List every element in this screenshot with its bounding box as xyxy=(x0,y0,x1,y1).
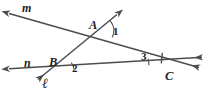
geometry-canvas xyxy=(0,0,214,92)
angle-label-3: 3 xyxy=(141,51,147,62)
angle-label-1: 1 xyxy=(113,26,119,37)
angle-label-2: 2 xyxy=(72,63,78,74)
angle-3-arc xyxy=(148,59,149,66)
congruence-tick-icon xyxy=(161,53,162,64)
point-label-b: B xyxy=(49,56,57,69)
line-n-segment xyxy=(9,57,202,69)
point-label-c: C xyxy=(165,70,173,83)
geometry-figure: m n ℓ A B C 1 2 3 xyxy=(0,0,214,92)
line-label-l: ℓ xyxy=(42,76,48,90)
line-label-n: n xyxy=(24,57,31,69)
line-label-m: m xyxy=(22,2,31,14)
point-label-a: A xyxy=(89,19,97,32)
